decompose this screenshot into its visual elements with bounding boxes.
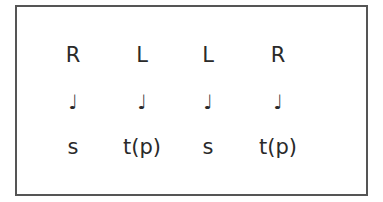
stroke-label: s bbox=[188, 135, 228, 159]
hand-label: L bbox=[188, 43, 228, 67]
quarter-note-icon: ♩ bbox=[53, 90, 93, 114]
stroke-label: t(p) bbox=[258, 135, 298, 159]
hand-label: L bbox=[122, 43, 162, 67]
hand-label: R bbox=[53, 43, 93, 67]
quarter-note-icon: ♩ bbox=[258, 90, 298, 114]
hand-label: R bbox=[258, 43, 298, 67]
stroke-label: s bbox=[53, 135, 93, 159]
quarter-note-icon: ♩ bbox=[188, 90, 228, 114]
stroke-label: t(p) bbox=[122, 135, 162, 159]
quarter-note-icon: ♩ bbox=[122, 90, 162, 114]
